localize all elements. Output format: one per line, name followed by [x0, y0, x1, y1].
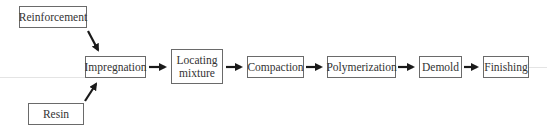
node-finishing: Finishing — [483, 56, 529, 78]
node-resin: Resin — [28, 103, 84, 125]
node-reinforcement: Reinforcement — [19, 6, 87, 28]
node-polymerization: Polymerization — [327, 56, 396, 78]
node-compaction: Compaction — [247, 56, 304, 78]
arrow-resin-to-impregnation — [85, 84, 96, 101]
node-demold: Demold — [419, 56, 462, 78]
node-locating-mixture: Locating mixture — [171, 49, 223, 84]
arrow-reinforcement-to-impregnation — [88, 31, 98, 50]
node-impregnation: Impregnation — [85, 56, 146, 78]
